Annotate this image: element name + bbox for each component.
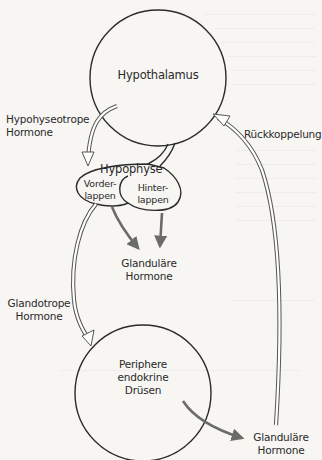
hypothalamus-label: Hypothalamus [108, 69, 208, 82]
glandulaere-hormone-label-2: Glanduläre Hormone [246, 431, 316, 457]
vorderlappen-label: Vorder- lappen [80, 178, 120, 202]
hinterlappen-label: Hinter- lappen [134, 182, 172, 206]
druesen-output-arrow [183, 401, 242, 438]
rueckkoppelung-label: Rückkoppelung [244, 128, 322, 141]
hypophyseotrope-label: Hypohyseotrope Hormone [6, 113, 89, 139]
rueckkoppelung-arrow [213, 114, 279, 425]
hinterlappen-output-arrow [160, 213, 162, 246]
diagram-canvas: Hypothalamus Hypohyseotrope Hormone Rück… [0, 0, 322, 460]
vorderlappen-output-arrow [112, 207, 138, 248]
glandulaere-hormone-label-1: Glanduläre Hormone [114, 257, 184, 283]
hypophyse-label: Hypophyse [100, 163, 160, 176]
lobe-divider [120, 176, 128, 203]
glandotrope-arrow [73, 204, 96, 346]
periphere-druesen-label: Periphere endokrine Drüsen [110, 358, 176, 397]
glandotrope-label: Glandotrope Hormone [6, 297, 72, 323]
